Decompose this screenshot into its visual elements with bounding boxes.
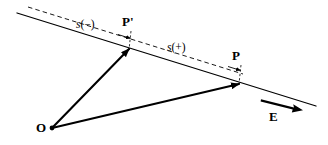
solid-reference-line [17,13,316,106]
tick-p [239,65,241,84]
vector-o-to-p-prime [52,49,129,128]
label-s-negative-arg: (−) [80,18,94,30]
dashed-measure-line [28,7,243,74]
vector-diagram-figure: P' P O E s(−) s(+) [0,0,328,145]
field-direction-arrow [261,99,303,112]
label-s-positive: s(+) [167,42,186,54]
diagram-canvas [0,0,328,145]
vector-o-to-p [52,84,239,128]
label-field-e: E [269,110,278,123]
label-s-positive-arg: (+) [171,41,185,53]
label-origin: O [36,121,46,134]
label-s-negative: s(−) [76,19,95,31]
arrow-to-p-prime [118,35,131,39]
tick-p-prime [129,31,131,50]
label-p: P [232,49,240,62]
origin-point-dot [50,126,55,131]
label-p-prime: P' [122,15,134,28]
